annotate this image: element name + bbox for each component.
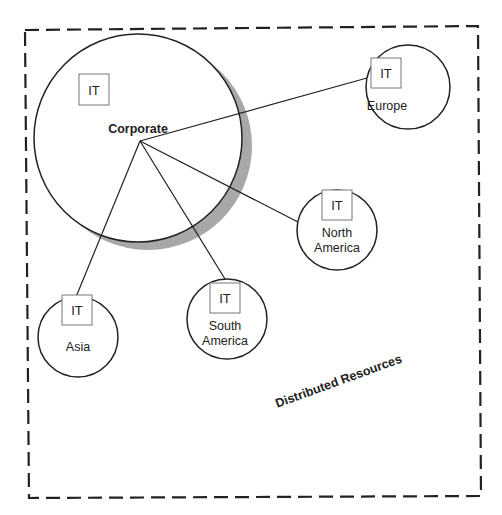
corporate-it-label: IT [88,83,100,98]
site-europe: IT Europe [366,45,450,129]
site-south-america: IT South America [187,279,267,359]
asia-it-label: IT [71,303,83,318]
europe-label: Europe [367,99,407,113]
site-north-america: IT North America [297,190,377,270]
corporate-label: Corporate [108,122,168,136]
europe-it-label: IT [380,66,392,81]
distributed-it-diagram: IT Corporate IT Europe IT North America … [0,0,502,515]
south-america-it-label: IT [219,291,231,306]
north-america-label-line2: America [314,241,360,255]
south-america-label-line1: South [209,319,242,333]
south-america-label-line2: America [202,334,248,348]
asia-label: Asia [66,340,90,354]
north-america-label-line1: North [322,226,353,240]
corporate-it-box: IT [79,74,109,105]
site-asia: IT Asia [38,295,118,377]
corporate-circle [34,34,242,242]
distributed-resources-label: Distributed Resources [274,352,404,411]
north-america-it-label: IT [331,198,343,213]
